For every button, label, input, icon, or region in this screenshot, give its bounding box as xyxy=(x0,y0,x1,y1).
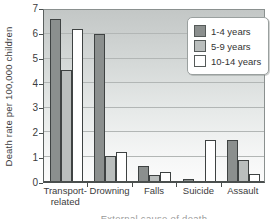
x-category-label-suicide: Suicide xyxy=(176,186,220,197)
y-tick-mark-1 xyxy=(39,158,43,159)
y-tick-mark-0 xyxy=(39,183,43,184)
legend-label: 1-4 years xyxy=(211,26,251,37)
bar-5-9-years xyxy=(238,160,249,181)
y-tick-label-4: 4 xyxy=(22,78,38,89)
y-tick-label-7: 7 xyxy=(22,3,38,14)
bar-5-9-years xyxy=(149,175,160,181)
bar-group-assault xyxy=(222,140,266,181)
legend-swatch-icon xyxy=(194,55,206,67)
y-tick-mark-4 xyxy=(39,84,43,85)
y-tick-label-1: 1 xyxy=(22,152,38,163)
bar-1-4-years xyxy=(183,179,194,181)
bar-group-transport-related xyxy=(44,19,88,181)
y-axis-title: Death rate per 100,000 children xyxy=(3,10,16,184)
legend-item-5-9-years: 5-9 years xyxy=(194,40,261,52)
y-tick-label-2: 2 xyxy=(22,127,38,138)
bar-1-4-years xyxy=(227,140,238,181)
x-category-label-drowning: Drowning xyxy=(87,186,131,197)
bar-group-suicide xyxy=(177,140,221,181)
x-category-label-assault: Assault xyxy=(221,186,265,197)
bar-10-14-years xyxy=(72,29,83,181)
legend: 1-4 years5-9 years10-14 years xyxy=(187,17,269,75)
y-tick-label-6: 6 xyxy=(22,28,38,39)
legend-swatch-icon xyxy=(194,25,206,37)
y-tick-label-0: 0 xyxy=(22,177,38,188)
bar-10-14-years xyxy=(116,152,127,181)
y-tick-mark-3 xyxy=(39,108,43,109)
bar-5-9-years xyxy=(105,156,116,181)
y-tick-mark-5 xyxy=(39,59,43,60)
x-category-label-transport-related: Transport-related xyxy=(43,186,87,207)
x-axis-caption-cutoff: External cause of death xyxy=(43,213,265,219)
legend-label: 10-14 years xyxy=(211,56,261,67)
legend-swatch-icon xyxy=(194,40,206,52)
legend-label: 5-9 years xyxy=(211,41,251,52)
y-tick-mark-2 xyxy=(39,133,43,134)
y-tick-mark-6 xyxy=(39,34,43,35)
bar-1-4-years xyxy=(50,19,61,181)
bar-group-falls xyxy=(133,166,177,181)
y-tick-label-3: 3 xyxy=(22,102,38,113)
legend-item-1-4-years: 1-4 years xyxy=(194,25,261,37)
bar-10-14-years xyxy=(205,140,216,181)
x-category-label-falls: Falls xyxy=(132,186,176,197)
legend-item-10-14-years: 10-14 years xyxy=(194,55,261,67)
bar-10-14-years xyxy=(249,174,260,181)
y-tick-label-5: 5 xyxy=(22,53,38,64)
bar-5-9-years xyxy=(61,70,72,181)
y-tick-mark-7 xyxy=(39,9,43,10)
bar-1-4-years xyxy=(138,166,149,181)
chart-figure: Death rate per 100,000 children 01234567… xyxy=(0,0,270,219)
bar-group-drowning xyxy=(88,34,132,181)
bar-10-14-years xyxy=(160,172,171,181)
bar-1-4-years xyxy=(94,34,105,181)
